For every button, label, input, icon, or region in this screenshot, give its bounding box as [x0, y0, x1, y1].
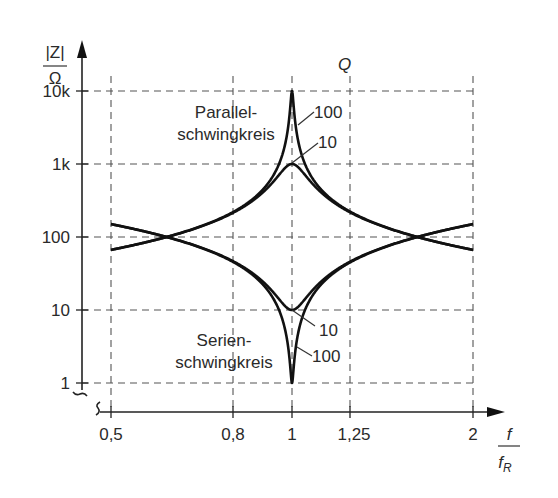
label-series-q100: 100: [312, 347, 340, 366]
leader-parallel-q10: [292, 143, 318, 163]
leader-series-q100: [297, 347, 312, 356]
y-tick-1: 1: [61, 374, 70, 393]
x-tick-1: 1: [287, 425, 296, 444]
y-axis-arrow-icon: [77, 40, 87, 58]
y-tick-1k: 1k: [52, 155, 70, 174]
x-tick-0-8: 0,8: [221, 425, 245, 444]
q-header-label: Q: [338, 55, 351, 74]
x-axis-break-icon: [96, 402, 100, 415]
impedance-chart: |Z| Ω 10k 1k 100 10 1 0,5 0,8 1 1,25 2 f…: [0, 0, 558, 498]
x-tick-0-5: 0,5: [99, 425, 123, 444]
x-axis-arrow-icon: [487, 407, 505, 417]
label-parallel-q100: 100: [314, 103, 342, 122]
x-axis-label-numerator: f: [507, 425, 514, 444]
x-tick-2: 2: [468, 425, 477, 444]
leader-parallel-q100: [298, 112, 314, 125]
label-parallel-q10: 10: [318, 133, 337, 152]
y-axis-label-numerator: |Z|: [45, 43, 64, 62]
y-tick-10: 10: [51, 301, 70, 320]
y-axis-break-icon: [73, 392, 87, 396]
y-tick-10k: 10k: [43, 82, 71, 101]
x-axis-label-denominator: fR: [498, 453, 512, 475]
series-label-line2: schwingkreis: [175, 353, 272, 372]
series-label-line1: Serien-: [197, 331, 252, 350]
parallel-label-line2: schwingkreis: [177, 125, 274, 144]
x-tick-1-25: 1,25: [337, 425, 370, 444]
y-tick-100: 100: [42, 228, 70, 247]
parallel-label-line1: Parallel-: [195, 103, 257, 122]
label-series-q10: 10: [319, 321, 338, 340]
